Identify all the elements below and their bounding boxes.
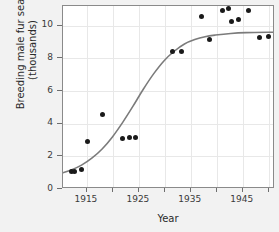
y-axis-title-line2: (thousands)	[27, 0, 39, 110]
y-tick-mark	[57, 155, 62, 156]
y-tick-label: 2	[0, 151, 53, 160]
data-point	[133, 135, 138, 140]
y-tick-mark	[57, 90, 62, 91]
data-point	[207, 37, 212, 42]
fitted-curve-layer	[63, 6, 273, 187]
y-tick-label: 0	[0, 184, 53, 193]
x-tick-mark	[164, 188, 165, 192]
data-point	[220, 8, 225, 13]
data-point	[199, 14, 204, 19]
x-tick-label: 1925	[126, 195, 149, 204]
x-tick-mark	[242, 188, 243, 192]
data-point	[229, 19, 234, 24]
data-point	[236, 17, 241, 22]
y-tick-mark	[57, 57, 62, 58]
y-tick-mark	[57, 25, 62, 26]
data-point	[120, 136, 125, 141]
data-point	[257, 35, 262, 40]
chart-figure: 0246810 1915192519351945 Breeding male f…	[0, 0, 279, 232]
x-tick-mark	[86, 188, 87, 192]
logistic-curve	[63, 32, 273, 173]
x-tick-mark	[268, 188, 269, 192]
data-point	[72, 169, 77, 174]
x-tick-mark	[190, 188, 191, 192]
x-tick-label: 1915	[74, 195, 97, 204]
x-tick-label: 1935	[178, 195, 201, 204]
y-axis-title-line1: Breeding male fur seals	[15, 0, 27, 110]
data-point	[127, 135, 132, 140]
x-tick-mark	[112, 188, 113, 192]
y-axis-title: Breeding male fur seals (thousands)	[15, 0, 39, 110]
y-tick-mark	[57, 123, 62, 124]
x-axis-title: Year	[62, 213, 274, 224]
y-tick-label: 4	[0, 118, 53, 127]
data-point	[246, 8, 251, 13]
x-tick-mark	[216, 188, 217, 192]
x-tick-label: 1945	[230, 195, 253, 204]
plot-area	[62, 5, 274, 188]
x-tick-mark	[138, 188, 139, 192]
y-tick-mark	[57, 188, 62, 189]
